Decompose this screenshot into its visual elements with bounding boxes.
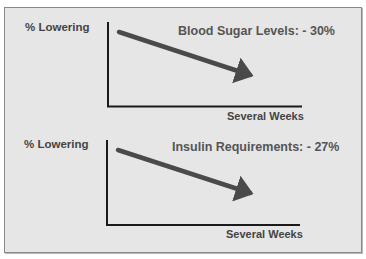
top-chart-title: Blood Sugar Levels: - 30% <box>178 24 335 38</box>
bottom-x-axis-label: Several Weeks <box>226 228 303 240</box>
top-y-axis-label: % Lowering <box>25 21 90 33</box>
bottom-chart-title: Insulin Requirements: - 27% <box>172 140 339 154</box>
bottom-trend-arrow <box>118 150 250 193</box>
top-x-axis-label: Several Weeks <box>227 110 304 122</box>
bottom-y-axis-label: % Lowering <box>24 138 89 150</box>
charts-graphics <box>0 0 366 259</box>
top-trend-arrow <box>119 32 250 75</box>
